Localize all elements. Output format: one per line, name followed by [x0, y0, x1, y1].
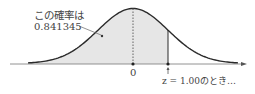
z-point	[166, 62, 169, 65]
z-label: z = 1.00のとき…	[162, 76, 236, 86]
z-pointer-arrowhead	[167, 67, 170, 70]
zero-label: 0	[130, 67, 136, 78]
annotation-line1: この確率は	[34, 9, 84, 21]
annotation-line2: 0.841345	[34, 21, 82, 32]
x-axis-arrow	[241, 62, 247, 66]
leader-dot	[101, 35, 103, 37]
zero-point	[131, 62, 134, 65]
normal-distribution-figure: この確率は 0.841345 0 z = 1.00のとき…	[0, 0, 255, 94]
